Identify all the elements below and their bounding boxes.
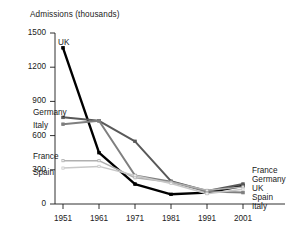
x-axis-ticks (63, 204, 243, 209)
series-label-france-left: France (33, 152, 58, 161)
series-label-spain-left: Spain (33, 168, 54, 177)
series-marker-france (242, 186, 244, 188)
series-marker-germany (242, 183, 245, 186)
y-axis-label-900: 900 (18, 96, 46, 105)
series-label-germany-right: Germany (252, 175, 286, 184)
y-axis-label-600: 600 (18, 131, 46, 140)
x-axis-label-1981: 1981 (154, 214, 188, 223)
series-label-uk-right: UK (252, 184, 263, 193)
series-marker-france (134, 177, 136, 179)
series-marker-spain (98, 165, 100, 167)
series-label-uk-left: UK (58, 38, 69, 47)
series-label-germany-left: Germany (33, 108, 67, 117)
y-axis-label-1200: 1200 (18, 62, 46, 71)
series-marker-italy (242, 191, 245, 194)
x-axis-label-1971: 1971 (118, 214, 152, 223)
series-marker-uk (98, 151, 101, 154)
series-marker-france (62, 160, 64, 162)
series-label-spain-right: Spain (252, 193, 273, 202)
x-axis-label-1991: 1991 (190, 214, 224, 223)
y-axis-label-0: 0 (18, 199, 46, 208)
series-marker-italy (62, 123, 65, 126)
series-marker-france (206, 189, 208, 191)
series-marker-germany (134, 140, 137, 143)
series-marker-france (98, 160, 100, 162)
y-axis-ticks (50, 33, 55, 204)
series-marker-uk (134, 183, 137, 186)
y-axis-label-1500: 1500 (18, 28, 46, 37)
series-marker-spain (62, 167, 64, 169)
series-label-italy-left: Italy (33, 121, 48, 130)
series-line-france (63, 161, 243, 191)
series-marker-spain (242, 188, 244, 190)
series-marker-uk (170, 193, 173, 196)
series-label-france-right: France (252, 166, 277, 175)
series-label-italy-right: Italy (252, 202, 267, 211)
series-marker-italy (98, 119, 101, 122)
x-axis-label-1961: 1961 (82, 214, 116, 223)
x-axis-label-1951: 1951 (46, 214, 80, 223)
series-marker-spain (134, 174, 136, 176)
chart-figure: Admissions (thousands) 1500 1200 900 600… (0, 0, 297, 245)
series-marker-spain (206, 193, 208, 195)
chart-series-group (62, 47, 245, 196)
series-marker-spain (170, 182, 172, 184)
chart-axes (55, 33, 285, 204)
x-axis-label-2001: 2001 (226, 214, 260, 223)
series-line-italy (63, 121, 243, 193)
